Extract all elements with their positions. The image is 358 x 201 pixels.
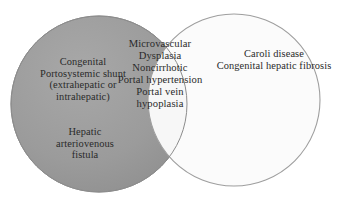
left-set-label-hepatic-arteriovenous-fistula: Hepatic arteriovenous fistula — [26, 126, 144, 161]
venn-diagram-figure: Congenital Portosystemic shunt (extrahep… — [0, 0, 358, 201]
venn-text-layer: Congenital Portosystemic shunt (extrahep… — [0, 0, 358, 201]
right-set-label-caroli-and-fibrosis: Caroli disease Congenital hepatic fibros… — [198, 48, 350, 71]
